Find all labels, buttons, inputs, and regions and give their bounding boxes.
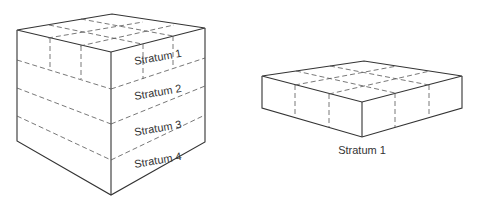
slab-top-face (262, 61, 462, 102)
cube-stratum-label-1: Stratum 1 (133, 47, 182, 67)
cube-stratum-label-4: Stratum 4 (133, 150, 182, 170)
cube-stratum-label-3: Stratum 3 (133, 118, 182, 138)
cube-stratum-label-2: Stratum 2 (133, 82, 182, 102)
cube-top-face (17, 14, 205, 52)
cube-strata-lines-right (111, 58, 205, 160)
slab-caption: Stratum 1 (338, 144, 386, 156)
stratified-cube: Stratum 1 Stratum 2 Stratum 3 Stratum 4 (17, 14, 205, 195)
strata-diagram: Stratum 1 Stratum 2 Stratum 3 Stratum 4 … (0, 0, 478, 206)
cube-strata-lines-left (17, 60, 111, 160)
stratum-slab: Stratum 1 (262, 61, 462, 156)
